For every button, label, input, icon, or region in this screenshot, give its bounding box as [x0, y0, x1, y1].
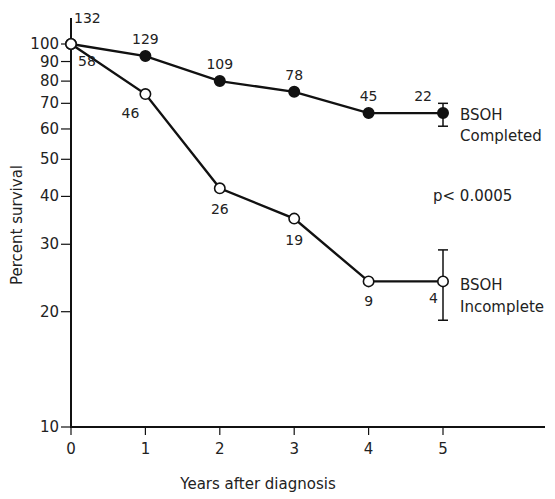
x-tick-label: 3: [289, 440, 299, 458]
legend-completed-line1: BSOH: [460, 106, 503, 124]
series-lines: [71, 44, 443, 281]
y-tick-label: 70: [40, 94, 59, 112]
n-at-risk-completed: 78: [285, 67, 303, 83]
p-value-annotation: p< 0.0005: [433, 187, 512, 205]
legend-completed-line2: Completed: [460, 127, 542, 145]
y-tick-label: 100: [30, 35, 59, 53]
n-at-risk-completed: 22: [414, 88, 432, 104]
n-at-risk-completed: 45: [360, 88, 378, 104]
n-at-risk-incomplete: 26: [211, 201, 229, 217]
open-circle-marker: [215, 183, 225, 193]
n-at-risk-completed: 129: [132, 31, 159, 47]
x-axis-title: Years after diagnosis: [179, 475, 336, 493]
x-tick-label: 4: [364, 440, 374, 458]
x-tick-label: 1: [141, 440, 151, 458]
n-at-risk-incomplete: 46: [122, 105, 140, 121]
y-axis-title: Percent survival: [8, 165, 26, 285]
y-tick-label: 10: [40, 418, 59, 436]
legend-incomplete-line2: Incomplete: [460, 298, 544, 316]
x-axis-ticks: 012345: [66, 427, 448, 458]
n-at-risk-completed: 132: [74, 10, 101, 26]
y-tick-label: 80: [40, 72, 59, 90]
y-axis-ticks: 102030405060708090100: [30, 35, 71, 436]
y-tick-label: 40: [40, 187, 59, 205]
x-tick-label: 5: [438, 440, 448, 458]
line-incomplete: [71, 44, 443, 281]
x-tick-label: 0: [66, 440, 76, 458]
open-circle-marker: [363, 276, 373, 286]
x-tick-label: 2: [215, 440, 225, 458]
survival-chart: 102030405060708090100 012345 13258129461…: [0, 0, 555, 499]
open-circle-marker: [289, 213, 299, 223]
error-bars: [438, 103, 448, 320]
legend-incomplete-line1: BSOH: [460, 276, 503, 294]
axes: [70, 18, 545, 427]
filled-circle-marker: [363, 108, 373, 118]
series-markers: [66, 39, 448, 287]
y-tick-label: 90: [40, 53, 59, 71]
n-at-risk-incomplete: 9: [364, 293, 373, 309]
filled-circle-marker: [140, 51, 150, 61]
filled-circle-marker: [215, 76, 225, 86]
n-at-risk-completed: 109: [206, 56, 233, 72]
open-circle-marker: [66, 39, 76, 49]
point-labels: 1325812946109267819459224: [74, 10, 438, 309]
n-at-risk-incomplete: 4: [429, 290, 438, 306]
open-circle-marker: [140, 89, 150, 99]
filled-circle-marker: [438, 108, 448, 118]
filled-circle-marker: [289, 87, 299, 97]
y-tick-label: 50: [40, 150, 59, 168]
n-at-risk-incomplete: 58: [78, 53, 96, 69]
y-tick-label: 20: [40, 303, 59, 321]
y-tick-label: 60: [40, 120, 59, 138]
n-at-risk-incomplete: 19: [285, 232, 303, 248]
line-completed: [71, 44, 443, 113]
open-circle-marker: [438, 276, 448, 286]
y-tick-label: 30: [40, 235, 59, 253]
